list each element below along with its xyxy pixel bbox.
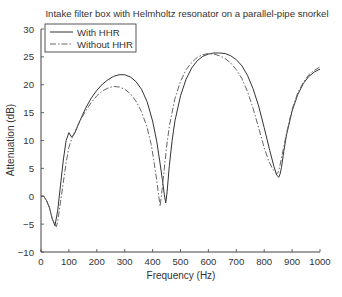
y-axis-label: Attenuation (dB) xyxy=(5,104,16,176)
legend: With HHR Without HHR xyxy=(45,24,136,52)
y-tick-label: −5 xyxy=(23,219,34,230)
x-tick-label: 600 xyxy=(200,256,216,267)
x-tick-label: 0 xyxy=(38,256,43,267)
x-tick-label: 200 xyxy=(89,256,105,267)
y-tick-label: 5 xyxy=(29,163,34,174)
chart-title: Intake filter box with Helmholtz resonat… xyxy=(45,8,328,19)
y-tick-label: 20 xyxy=(23,79,34,90)
legend-label-with-hhr: With HHR xyxy=(77,27,120,38)
y-tick-label: 30 xyxy=(23,24,34,35)
legend-label-without-hhr: Without HHR xyxy=(77,39,133,50)
attenuation-chart: Intake filter box with Helmholtz resonat… xyxy=(0,0,342,297)
x-tick-label: 1000 xyxy=(309,256,330,267)
series-line-without-hhr xyxy=(41,54,320,227)
y-tick-label: 15 xyxy=(23,107,34,118)
x-tick-label: 800 xyxy=(256,256,272,267)
series-line-with-hhr xyxy=(41,53,320,226)
x-tick-label: 400 xyxy=(145,256,161,267)
y-tick-label: 25 xyxy=(23,51,34,62)
x-tick-label: 700 xyxy=(228,256,244,267)
x-tick-label: 500 xyxy=(172,256,188,267)
y-tick-label: −10 xyxy=(18,247,34,258)
x-tick-label: 100 xyxy=(61,256,77,267)
x-tick-label: 900 xyxy=(284,256,300,267)
x-axis-label: Frequency (Hz) xyxy=(147,270,216,281)
plot-area xyxy=(41,53,320,227)
y-tick-label: 10 xyxy=(23,135,34,146)
y-tick-label: 0 xyxy=(29,191,34,202)
x-tick-label: 300 xyxy=(117,256,133,267)
